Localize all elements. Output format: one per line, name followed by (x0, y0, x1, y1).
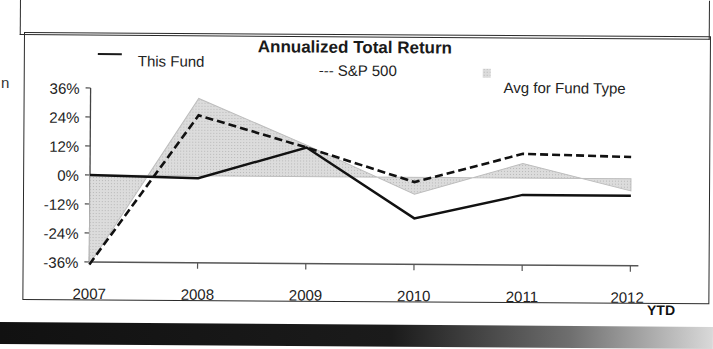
x-tick-label: 2008 (181, 286, 214, 303)
plot-area (89, 98, 631, 269)
x-tick-label: 2007 (72, 285, 105, 302)
y-tick-label: 0% (57, 167, 79, 184)
legend-avg-label: Avg for Fund Type (504, 79, 626, 97)
y-tick-label: -24% (44, 225, 79, 242)
y-axis: 36%24%12%0%-12%-24%-36% (43, 80, 90, 271)
y-tick-label: -36% (43, 254, 78, 271)
x-tick-label: 2009 (289, 286, 322, 303)
x-tick-label: 2012 (610, 289, 643, 306)
y-tick-label: 12% (49, 138, 79, 155)
x-tick-label: 2010 (397, 287, 430, 304)
page-edge-shadow (0, 322, 713, 349)
y-tick-label: 24% (49, 109, 79, 126)
legend-fund-label: This Fund (138, 52, 205, 69)
x-tick-label: 2011 (506, 288, 538, 305)
legend-sp500-label: --- S&P 500 (319, 62, 397, 80)
y-tick-label: 36% (50, 80, 80, 97)
x-axis-ytd-label: YTD (647, 302, 675, 318)
chart-title: Annualized Total Return (258, 37, 452, 57)
sp500-line (89, 115, 631, 269)
legend-avg-swatch (483, 69, 491, 78)
x-axis: 200720082009201020112012 (72, 262, 644, 306)
y-tick-label: -12% (44, 196, 79, 213)
